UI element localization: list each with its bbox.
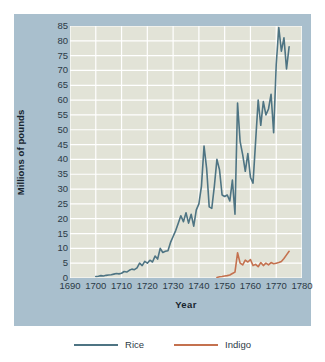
y-axis-tick-label: 65 [42, 81, 68, 91]
chart-figure: 8580757065605550454035302520151050 16901… [0, 0, 325, 362]
y-axis-tick-label: 45 [42, 140, 68, 150]
y-axis-title-text: Millions of pounds [16, 109, 27, 195]
y-axis-title: Millions of pounds [14, 26, 28, 278]
y-axis-tick-label: 50 [42, 125, 68, 135]
y-axis-tick-label: 75 [42, 51, 68, 61]
y-axis-tick-label: 10 [42, 244, 68, 254]
y-axis-tick-label: 55 [42, 110, 68, 120]
legend-swatch-indigo [174, 344, 218, 346]
x-axis-tick-label: 1720 [137, 281, 158, 291]
y-axis-tick-label: 60 [42, 95, 68, 105]
plot-canvas [70, 26, 302, 278]
x-axis-tick-labels: 1690170017101720173017401750176017701780 [70, 281, 302, 295]
legend-entry-rice[interactable]: Rice [74, 340, 144, 350]
legend-label-indigo: Indigo [225, 340, 251, 350]
y-axis-tick-label: 40 [42, 155, 68, 165]
y-axis-tick-label: 25 [42, 199, 68, 209]
legend-swatch-rice [74, 344, 118, 346]
y-axis-tick-label: 35 [42, 169, 68, 179]
legend-label-rice: Rice [125, 340, 144, 350]
gridlines [70, 26, 302, 278]
plot-area [70, 26, 302, 278]
y-axis-tick-label: 5 [42, 258, 68, 268]
y-axis-tick-label: 70 [42, 66, 68, 76]
y-axis-tick-label: 80 [42, 36, 68, 46]
chart-legend: RiceIndigo [14, 336, 311, 354]
x-axis-tick-label: 1740 [188, 281, 209, 291]
x-axis-tick-label: 1690 [59, 281, 80, 291]
y-axis-tick-labels: 8580757065605550454035302520151050 [40, 26, 68, 278]
legend-entry-indigo[interactable]: Indigo [174, 340, 251, 350]
series-line-rice [96, 27, 289, 276]
series-line-indigo [217, 251, 289, 277]
y-axis-tick-label: 85 [42, 21, 68, 31]
x-axis-tick-label: 1750 [214, 281, 235, 291]
x-axis-tick-label: 1710 [111, 281, 132, 291]
x-axis-tick-label: 1700 [85, 281, 106, 291]
x-axis-tick-label: 1780 [291, 281, 312, 291]
y-axis-tick-label: 30 [42, 184, 68, 194]
x-axis-tick-label: 1760 [240, 281, 261, 291]
y-axis-tick-label: 15 [42, 229, 68, 239]
x-axis-tick-label: 1770 [266, 281, 287, 291]
y-axis-tick-label: 20 [42, 214, 68, 224]
x-axis-tick-label: 1730 [163, 281, 184, 291]
x-axis-title: Year [70, 299, 302, 310]
